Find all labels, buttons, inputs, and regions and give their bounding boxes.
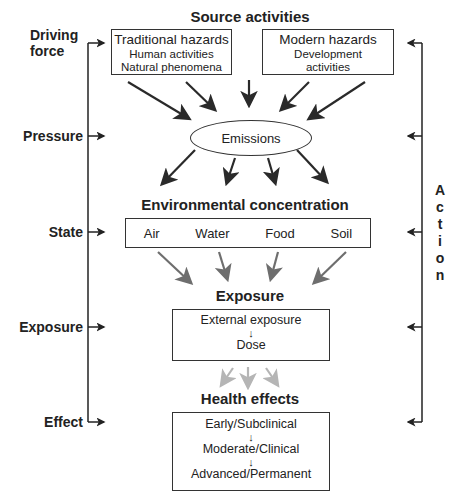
health-effects-heading: Health effects [180,390,320,407]
down-arrow-icon: ↓ [173,457,329,467]
media-box: Air Water Food Soil [125,218,371,248]
moderate-clinical-label: Moderate/Clinical [173,442,329,457]
source-activities-heading: Source activities [150,8,350,25]
action-letter: c [430,199,450,216]
media-soil: Soil [330,226,352,241]
traditional-hazards-title: Traditional hazards [112,32,231,48]
stage-driving-force: Driving force [6,27,82,59]
traditional-item: Natural phenomena [112,61,231,74]
action-letter: t [430,216,450,233]
action-letter: A [430,182,450,199]
environmental-concentration-heading: Environmental concentration [120,196,370,213]
dose-to-health-arrows [222,367,277,386]
action-letter: o [430,250,450,267]
early-subclinical-label: Early/Subclinical [173,417,329,432]
modern-hazards-title: Modern hazards [263,32,393,48]
emissions-ellipse: Emissions [190,120,312,156]
exposure-heading: Exposure [180,287,320,304]
emissions-label: Emissions [221,131,280,146]
modern-item: activities [263,61,393,74]
dose-label: Dose [173,338,329,353]
stage-driving-force-line1: Driving [30,27,82,43]
stage-driving-force-line2: force [30,43,82,59]
stage-state: State [0,224,83,240]
media-to-exposure-arrows [158,252,346,282]
stage-pressure: Pressure [0,128,83,144]
action-letter: i [430,233,450,250]
action-letter: n [430,267,450,284]
media-food: Food [265,226,295,241]
stage-exposure: Exposure [0,319,83,335]
exposure-box: External exposure ↓ Dose [172,309,330,361]
modern-hazards-box: Modern hazards Development activities [262,29,394,75]
stage-effect: Effect [0,414,83,430]
media-air: Air [144,226,160,241]
media-water: Water [195,226,229,241]
down-arrow-icon: ↓ [173,432,329,442]
traditional-hazards-box: Traditional hazards Human activities Nat… [111,29,232,75]
modern-item: Development [263,48,393,61]
health-effects-box: Early/Subclinical ↓ Moderate/Clinical ↓ … [172,412,330,491]
left-bracket [88,43,104,422]
action-bracket [408,43,422,422]
advanced-permanent-label: Advanced/Permanent [173,467,329,482]
source-to-emissions-arrows [128,80,365,118]
traditional-item: Human activities [112,48,231,61]
action-label: A c t i o n [430,182,450,284]
down-arrow-icon: ↓ [173,328,329,338]
external-exposure-label: External exposure [173,313,329,328]
